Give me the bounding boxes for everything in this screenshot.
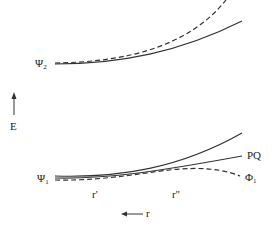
coordinate-axis-label: r (146, 208, 150, 219)
energy-arrow-head-icon (12, 92, 17, 99)
pq-solid-curve (55, 156, 242, 178)
r-prime-label: r' (92, 189, 98, 200)
pq-label: PQ (247, 150, 261, 161)
psi2-solid-curve (55, 21, 242, 64)
r-arrow-head-icon (121, 212, 127, 217)
r-double-prime-label: r'' (172, 189, 180, 200)
energy-axis-label: E (10, 121, 17, 132)
phi1-dashed-curve (55, 168, 240, 180)
energy-diagram (0, 0, 276, 234)
psi2-dashed-curve (55, 0, 226, 63)
psi2-label: Ψ2 (35, 58, 47, 71)
psi1-label: Ψ1 (37, 173, 49, 186)
psi1-solid-upper-curve (55, 133, 242, 176)
phi1-label: Φ1 (245, 172, 257, 185)
